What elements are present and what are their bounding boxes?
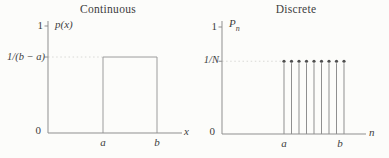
stem-dot bbox=[305, 60, 308, 63]
left-y-tick-level: 1/(b − a) bbox=[1, 51, 45, 63]
right-panel-title: Discrete bbox=[250, 3, 342, 15]
left-panel-title: Continuous bbox=[58, 3, 158, 15]
left-x-tick-b: b bbox=[151, 136, 163, 148]
stem-dot bbox=[327, 60, 330, 63]
stem-dot bbox=[312, 60, 315, 63]
right-y-tick-level: 1/N bbox=[194, 54, 219, 66]
right-x-tick-b: b bbox=[334, 137, 346, 149]
right-y-axis-label-subscript: n bbox=[236, 24, 240, 33]
right-y-axis-label-base: P bbox=[229, 17, 236, 29]
figure-uniform-distributions: Continuous p(x) 1 1/(b − a) 0 a b x Disc… bbox=[0, 0, 389, 158]
left-x-tick-a: a bbox=[97, 136, 109, 148]
stem-dot bbox=[290, 60, 293, 63]
stem-dot bbox=[320, 60, 323, 63]
right-y-axis-label: Pn bbox=[229, 17, 240, 34]
stem-dot bbox=[335, 60, 338, 63]
right-y-tick-1: 1 bbox=[202, 20, 217, 32]
right-x-axis-label: n bbox=[369, 126, 375, 138]
left-y-axis-label: p(x) bbox=[55, 18, 73, 30]
left-y-tick-1: 1 bbox=[28, 19, 43, 31]
left-y-tick-0: 0 bbox=[26, 124, 41, 136]
right-x-tick-a: a bbox=[278, 137, 290, 149]
stem-dot bbox=[297, 60, 300, 63]
right-y-tick-0: 0 bbox=[200, 125, 215, 137]
left-x-axis-label: x bbox=[184, 125, 189, 137]
stem-dot bbox=[282, 60, 285, 63]
uniform-rectangle bbox=[103, 57, 157, 133]
stem-dot bbox=[342, 60, 345, 63]
